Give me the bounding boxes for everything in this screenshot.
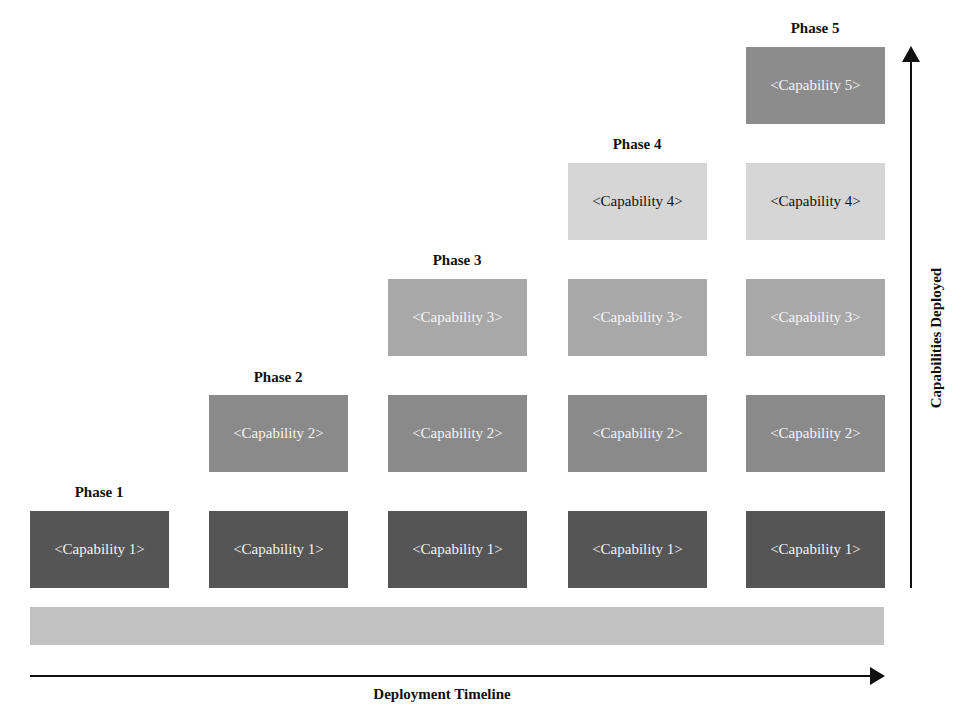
phase-4-capability-2: <Capability 2> — [568, 395, 707, 472]
y-axis-arrow-icon — [902, 46, 920, 62]
phase-3-capability-1: <Capability 1> — [388, 511, 527, 588]
phase-2-label: Phase 2 — [209, 369, 347, 386]
phase-5-capability-5: <Capability 5> — [746, 47, 885, 124]
phase-4-capability-4: <Capability 4> — [568, 163, 707, 240]
phase-5-capability-3: <Capability 3> — [746, 279, 885, 356]
phase-3-capability-2: <Capability 2> — [388, 395, 527, 472]
phase-2-capability-2: <Capability 2> — [209, 395, 348, 472]
x-axis-arrow-icon — [870, 667, 885, 685]
y-axis-line — [910, 60, 912, 588]
x-axis-line — [30, 675, 872, 677]
phase-3-capability-3: <Capability 3> — [388, 279, 527, 356]
phase-2-capability-1: <Capability 1> — [209, 511, 348, 588]
phase-4-capability-3: <Capability 3> — [568, 279, 707, 356]
x-axis-label: Deployment Timeline — [300, 686, 584, 703]
phase-5-label: Phase 5 — [746, 20, 884, 37]
phase-4-capability-1: <Capability 1> — [568, 511, 707, 588]
phase-3-label: Phase 3 — [388, 252, 526, 269]
phase-1-capability-1: <Capability 1> — [30, 511, 169, 588]
phase-5-capability-2: <Capability 2> — [746, 395, 885, 472]
phase-4-label: Phase 4 — [568, 136, 706, 153]
y-axis-label: Capabilities Deployed — [928, 268, 945, 408]
timeline-bar — [30, 607, 884, 645]
phase-1-label: Phase 1 — [30, 484, 168, 501]
phase-5-capability-1: <Capability 1> — [746, 511, 885, 588]
phase-5-capability-4: <Capability 4> — [746, 163, 885, 240]
